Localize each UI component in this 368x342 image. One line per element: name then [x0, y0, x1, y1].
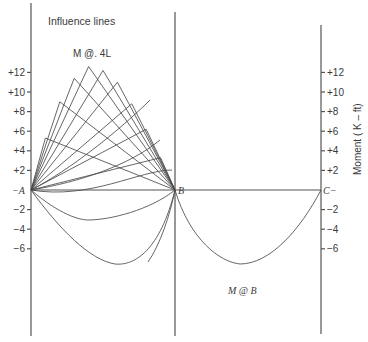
curved-lines — [31, 100, 321, 264]
left-ticks: +12+10+8+6+4+2−2−4−6 — [8, 67, 31, 254]
right-ticks: +12+10+8+6+4+2−2−4−6 — [321, 67, 344, 254]
left-tick-label: −2 — [14, 204, 26, 215]
point-B-label: B — [178, 185, 184, 196]
y-axis-title: Moment ( K – ft) — [352, 103, 363, 175]
left-tick-label: +8 — [14, 106, 26, 117]
left-tick-label: +2 — [14, 165, 26, 176]
right-tick-label: +6 — [327, 126, 339, 137]
point-C-label: C− — [323, 185, 336, 196]
influence-line-0.2L — [31, 102, 175, 190]
left-tick-label: +6 — [14, 126, 26, 137]
right-tick-label: −6 — [327, 243, 339, 254]
left-tick-label: +4 — [14, 145, 26, 156]
right-tick-label: +10 — [327, 87, 344, 98]
support-B-moment-label: M @ B — [227, 285, 257, 296]
diagram-title: Influence lines — [48, 15, 115, 27]
right-tick-label: +2 — [327, 165, 339, 176]
right-tick-label: +12 — [327, 67, 344, 78]
right-tick-label: −2 — [327, 204, 339, 215]
influence-line-diagram: +12+10+8+6+4+2−2−4−6 +12+10+8+6+4+2−2−4−… — [0, 0, 368, 342]
left-tick-label: +12 — [8, 67, 25, 78]
left-tick-label: −4 — [14, 224, 26, 235]
point-A-label: −A — [12, 185, 26, 196]
right-tick-label: +8 — [327, 106, 339, 117]
left-tick-label: −6 — [14, 243, 26, 254]
left-tick-label: +10 — [8, 87, 25, 98]
right-tick-label: +4 — [327, 145, 339, 156]
peak-label: M @. 4L — [73, 48, 111, 59]
influence-line-0.1L — [31, 138, 175, 190]
negative-curve-small — [31, 190, 175, 220]
right-tick-label: −4 — [327, 224, 339, 235]
influence-line-0.7L — [31, 104, 175, 190]
moment-at-B-curve — [175, 190, 321, 264]
